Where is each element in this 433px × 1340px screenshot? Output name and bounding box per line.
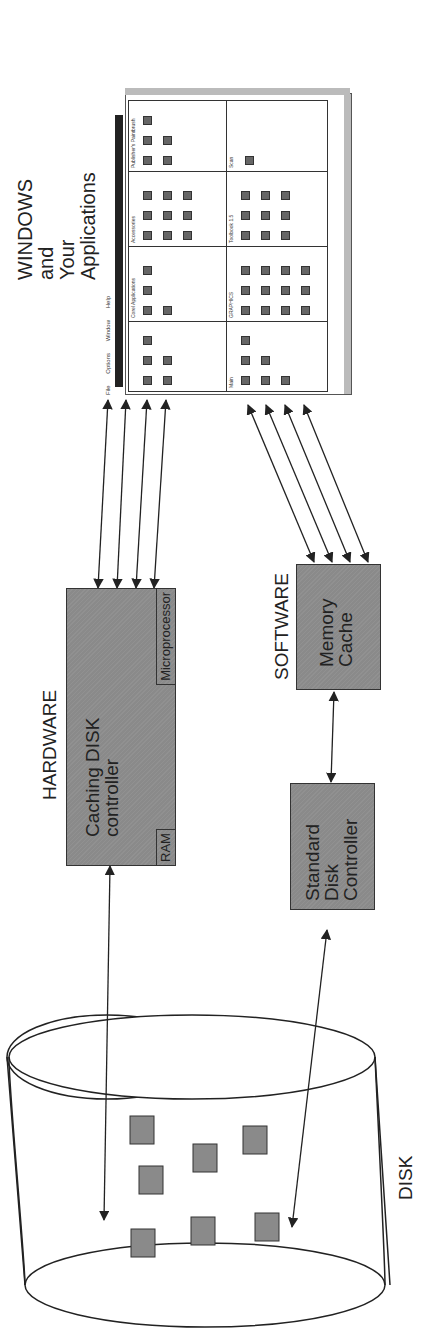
app-icon[interactable] (143, 136, 152, 145)
app-icon[interactable] (163, 376, 172, 385)
app-icon[interactable] (183, 211, 192, 220)
app-icon[interactable] (301, 266, 310, 275)
app-icon[interactable] (163, 191, 172, 200)
memory-line-2: Cache (336, 598, 355, 667)
menu-options[interactable]: Options (105, 353, 111, 374)
group-scan: Scan (226, 100, 328, 172)
standard-line-2: Disk (322, 819, 341, 901)
menu-help[interactable]: Help (105, 296, 111, 308)
app-icon[interactable] (143, 156, 152, 165)
app-icon[interactable] (163, 136, 172, 145)
disk-label: DISK (396, 1156, 415, 1200)
menu-bar: File Options Window Help (105, 88, 115, 395)
app-icon[interactable] (281, 266, 290, 275)
windows-apps-title: WINDOWS and Your Applications (15, 172, 99, 280)
app-icon[interactable] (143, 116, 152, 125)
app-icon[interactable] (241, 191, 250, 200)
app-icon[interactable] (143, 356, 152, 365)
standard-line-3: Controller (341, 819, 360, 901)
title-line-4: Applications (78, 172, 99, 280)
app-icon[interactable] (143, 306, 152, 315)
app-icon[interactable] (261, 266, 270, 275)
microprocessor-label: Microprocessor (156, 588, 176, 685)
group-publishers-paintbrush: Publisher's Paintbrush (128, 100, 228, 172)
group-toolbook: Toolbook 1.5 (226, 170, 328, 247)
app-icon[interactable] (163, 306, 172, 315)
app-icon[interactable] (163, 231, 172, 240)
caching-line-1: Caching DISK (83, 718, 102, 837)
app-icon[interactable] (301, 286, 310, 295)
standard-disk-controller-box: Standard Disk Controller (290, 783, 375, 910)
hardware-label: HARDWARE (40, 690, 59, 800)
caching-line-2: controller (102, 718, 121, 837)
app-icon[interactable] (183, 191, 192, 200)
caching-controller-text: Caching DISK controller (83, 718, 121, 837)
app-icon[interactable] (281, 211, 290, 220)
app-icon[interactable] (261, 231, 270, 240)
program-manager-area: Corel Applications Accessories Publishe (125, 93, 352, 395)
app-icon[interactable] (281, 231, 290, 240)
title-bar (115, 115, 123, 387)
app-icon[interactable] (241, 376, 250, 385)
group-title: Publisher's Paintbrush (130, 118, 136, 168)
app-icon[interactable] (143, 336, 152, 345)
title-line-2: and (36, 172, 57, 280)
app-icon[interactable] (241, 336, 250, 345)
app-icon[interactable] (163, 156, 172, 165)
software-label: SOFTWARE (272, 573, 291, 680)
app-icon[interactable] (261, 191, 270, 200)
app-icon[interactable] (261, 356, 270, 365)
app-icon[interactable] (241, 231, 250, 240)
app-icon[interactable] (163, 211, 172, 220)
app-icon[interactable] (241, 286, 250, 295)
app-icon[interactable] (143, 231, 152, 240)
app-icon[interactable] (261, 376, 270, 385)
app-icon[interactable] (143, 286, 152, 295)
group-main: Main (226, 320, 328, 392)
horizontal-scrollbar[interactable] (344, 94, 351, 394)
app-icon[interactable] (183, 231, 192, 240)
app-icon[interactable] (261, 211, 270, 220)
windows-screenshot: File Options Window Help Corel Applicati… (105, 88, 350, 395)
group-title: Scan (228, 157, 234, 168)
memory-cache-box: Memory Cache (296, 564, 381, 690)
caching-disk-controller-box: Caching DISK controller RAM Microprocess… (66, 588, 176, 866)
app-icon[interactable] (143, 211, 152, 220)
group-accessories: Accessories (128, 170, 228, 247)
ram-label: RAM (156, 829, 176, 866)
app-icon[interactable] (143, 266, 152, 275)
group-title: Corel Applications (130, 278, 136, 318)
memory-line-1: Memory (317, 598, 336, 667)
app-icon[interactable] (245, 156, 254, 165)
standard-controller-text: Standard Disk Controller (303, 819, 360, 901)
app-icon[interactable] (143, 376, 152, 385)
group-active-window (128, 320, 228, 392)
app-icon[interactable] (163, 356, 172, 365)
vertical-scrollbar[interactable] (125, 88, 350, 95)
app-icon[interactable] (281, 306, 290, 315)
app-icon[interactable] (301, 306, 310, 315)
app-icon[interactable] (281, 286, 290, 295)
app-icon[interactable] (241, 211, 250, 220)
menu-window[interactable]: Window (105, 320, 111, 341)
menu-file[interactable]: File (105, 385, 111, 395)
app-icon[interactable] (261, 306, 270, 315)
group-graphics: GRAPHICS (226, 245, 328, 322)
group-title: Main (228, 377, 234, 388)
app-icon[interactable] (281, 376, 290, 385)
app-icon[interactable] (261, 286, 270, 295)
app-icon[interactable] (241, 266, 250, 275)
group-title: Accessories (130, 216, 136, 243)
standard-line-1: Standard (303, 819, 322, 901)
disk-blocks (130, 1116, 279, 1257)
app-icon[interactable] (281, 191, 290, 200)
group-corel-applications: Corel Applications (128, 245, 228, 322)
title-line-3: Your (57, 172, 78, 280)
title-line-1: WINDOWS (15, 172, 36, 280)
app-icon[interactable] (143, 191, 152, 200)
group-title: GRAPHICS (228, 292, 234, 318)
app-icon[interactable] (241, 306, 250, 315)
group-title: Toolbook 1.5 (228, 215, 234, 243)
memory-cache-text: Memory Cache (317, 598, 355, 667)
app-icon[interactable] (241, 356, 250, 365)
